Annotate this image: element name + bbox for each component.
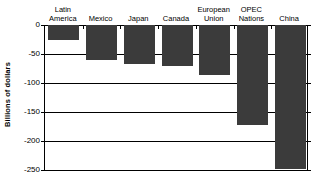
x-axis-tick-mark	[271, 25, 272, 29]
plot-area	[44, 25, 308, 170]
axis-tick-mark	[307, 170, 311, 171]
y-axis-tick-label: -150	[14, 108, 40, 116]
x-axis-tick-mark	[234, 25, 235, 29]
y-axis-tick-label: -250	[14, 166, 40, 174]
x-axis-tick-mark	[120, 25, 121, 29]
category-label: Mexico	[82, 15, 120, 23]
category-label: Latin America	[44, 6, 82, 23]
category-label: China	[270, 15, 308, 23]
y-axis-tick-label: -100	[14, 79, 40, 87]
x-axis-tick-mark	[83, 25, 84, 29]
x-axis-category-labels: Latin AmericaMexicoJapanCanadaEuropean U…	[44, 0, 308, 24]
bar	[237, 25, 268, 125]
x-axis-tick-mark	[158, 25, 159, 29]
axis-tick-mark	[307, 112, 311, 113]
axis-tick-mark	[41, 170, 45, 171]
bar	[199, 25, 230, 75]
category-label: OPEC Nations	[233, 6, 271, 23]
axis-tick-mark	[307, 141, 311, 142]
y-axis-title-text: Billions of dollars	[3, 62, 12, 127]
y-axis-tick-label: -50	[14, 50, 40, 58]
category-label: European Union	[195, 6, 233, 23]
bar-chart: Billions of dollars 0-50-100-150-200-250…	[0, 0, 316, 188]
bar	[86, 25, 117, 60]
gridline	[45, 170, 307, 171]
x-axis-tick-mark	[196, 25, 197, 29]
bar-series	[45, 25, 307, 170]
bar	[124, 25, 155, 64]
y-axis-title: Billions of dollars	[0, 0, 14, 188]
y-axis-tick-label: 0	[14, 21, 40, 29]
axis-tick-mark	[307, 54, 311, 55]
category-label: Canada	[157, 15, 195, 23]
bar	[275, 25, 306, 169]
axis-tick-mark	[307, 25, 311, 26]
bar	[48, 25, 79, 40]
axis-tick-mark	[307, 83, 311, 84]
y-axis-tick-labels: 0-50-100-150-200-250	[14, 0, 40, 188]
bar	[162, 25, 193, 66]
category-label: Japan	[119, 15, 157, 23]
y-axis-tick-label: -200	[14, 137, 40, 145]
